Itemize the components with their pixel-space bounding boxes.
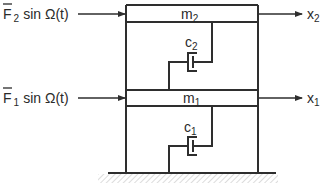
- force-f2: F2sin Ω(t): [3, 4, 125, 24]
- diagram-canvas: m2 m1 c2 c1 F2sin Ω(t) F1sin Ω(t) x2: [0, 0, 326, 192]
- force-f1: F1sin Ω(t): [3, 88, 125, 108]
- ground: [98, 173, 278, 183]
- force-f2-label: F2sin Ω(t): [3, 6, 69, 24]
- force-f1-label: F1sin Ω(t): [3, 90, 69, 108]
- mass-m1: m1: [126, 90, 258, 108]
- mass-m2-label: m2: [181, 6, 199, 24]
- mass-m1-label: m1: [183, 90, 201, 108]
- displacement-x2: x2: [259, 6, 320, 24]
- damper-c1-lower-rod: [169, 146, 188, 173]
- ground-hatching: [98, 174, 278, 183]
- displacement-x1-label: x1: [307, 90, 320, 108]
- damper-c2-lower-rod: [169, 62, 188, 90]
- damper-c2-label: c2: [185, 34, 198, 52]
- damper-c2: c2: [169, 22, 212, 90]
- displacement-x2-label: x2: [307, 6, 320, 24]
- displacement-x1: x1: [259, 90, 320, 108]
- mass-m2: m2: [126, 5, 258, 24]
- damper-c1-label: c1: [184, 119, 197, 137]
- damper-c1: c1: [169, 106, 212, 173]
